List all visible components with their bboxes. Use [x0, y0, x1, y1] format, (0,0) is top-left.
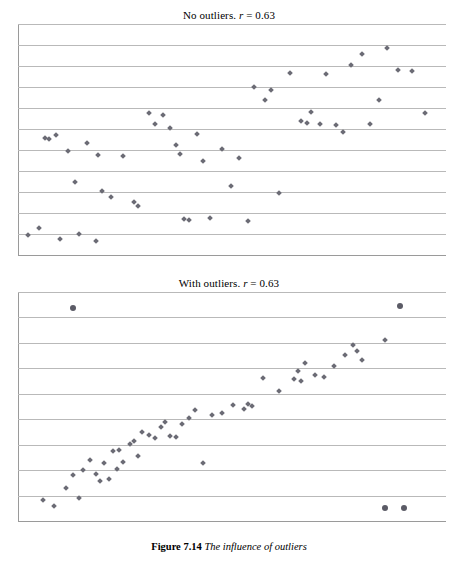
- data-point: [97, 478, 103, 484]
- data-point: [317, 121, 323, 127]
- data-point: [228, 183, 234, 189]
- gridline: [18, 394, 446, 395]
- data-point: [85, 141, 91, 147]
- data-point: [63, 485, 69, 491]
- gridline: [18, 445, 446, 446]
- data-point: [260, 375, 266, 381]
- data-point: [382, 337, 388, 343]
- data-point: [251, 84, 257, 90]
- data-point: [57, 237, 63, 243]
- gridline: [18, 496, 446, 497]
- chart-panel-with-outliers: With outliers. r = 0.63: [0, 276, 458, 538]
- data-point: [40, 497, 46, 503]
- data-point: [51, 503, 57, 509]
- data-point: [108, 194, 114, 200]
- data-point: [308, 109, 314, 115]
- gridline: [18, 419, 446, 420]
- data-point: [355, 348, 361, 354]
- data-point: [350, 343, 356, 349]
- data-point: [312, 372, 318, 378]
- data-point: [135, 203, 141, 209]
- gridline: [18, 171, 446, 172]
- data-point: [87, 457, 93, 463]
- chart-title-no-outliers: No outliers. r = 0.63: [0, 8, 458, 22]
- scatter-plot-with-outliers: [18, 292, 446, 522]
- data-point: [359, 357, 365, 363]
- data-point: [340, 129, 346, 135]
- data-point: [296, 368, 302, 374]
- gridline: [18, 150, 446, 151]
- data-point: [321, 374, 327, 380]
- scatter-plot-no-outliers: [18, 24, 446, 256]
- data-point: [376, 98, 382, 104]
- data-point: [120, 153, 126, 159]
- data-point: [167, 433, 173, 439]
- data-point: [334, 122, 340, 128]
- gridline: [18, 317, 446, 318]
- outlier-point: [397, 303, 403, 309]
- gridline: [18, 87, 446, 88]
- data-point: [268, 87, 274, 93]
- data-point: [359, 51, 365, 57]
- data-point: [367, 121, 373, 127]
- data-point: [348, 63, 354, 69]
- chart-title-stat-value-top: = 0.63: [243, 9, 275, 21]
- gridline: [18, 108, 446, 109]
- figure-caption-label: Figure 7.14: [151, 541, 202, 552]
- outlier-point: [70, 305, 76, 311]
- data-point: [152, 436, 158, 442]
- data-point: [110, 448, 116, 454]
- data-point: [106, 476, 112, 482]
- x-axis-top: [18, 255, 446, 256]
- data-point: [146, 110, 152, 116]
- outlier-point: [401, 505, 407, 511]
- chart-title-with-outliers: With outliers. r = 0.63: [0, 276, 458, 290]
- data-point: [131, 438, 137, 444]
- data-point: [70, 472, 76, 478]
- data-point: [422, 110, 428, 116]
- data-point: [146, 432, 152, 438]
- chart-title-prefix-bottom: With outliers.: [179, 277, 243, 289]
- y-axis-bottom: [18, 292, 19, 522]
- figure-caption: Figure 7.14 The influence of outliers: [0, 541, 458, 552]
- data-point: [220, 410, 226, 416]
- gridline: [18, 45, 446, 46]
- data-point: [230, 402, 236, 408]
- data-point: [93, 471, 99, 477]
- data-point: [120, 459, 126, 465]
- data-point: [186, 415, 192, 421]
- data-point: [53, 133, 59, 139]
- gridline: [18, 213, 446, 214]
- plot-area-top: [18, 24, 446, 256]
- data-point: [323, 72, 329, 78]
- data-point: [101, 460, 107, 466]
- data-point: [180, 421, 186, 427]
- data-point: [186, 217, 192, 223]
- figure-page: No outliers. r = 0.63 With outliers. r =…: [0, 0, 458, 562]
- data-point: [201, 460, 207, 466]
- plot-area-bottom: [18, 292, 446, 522]
- data-point: [262, 98, 268, 104]
- data-point: [291, 376, 297, 382]
- data-point: [161, 112, 167, 118]
- chart-title-prefix-top: No outliers.: [183, 9, 239, 21]
- gridline: [18, 192, 446, 193]
- data-point: [95, 152, 101, 158]
- gridline: [18, 129, 446, 130]
- gridline: [18, 66, 446, 67]
- data-point: [72, 179, 78, 185]
- data-point: [173, 142, 179, 148]
- data-point: [236, 155, 242, 161]
- data-point: [192, 408, 198, 414]
- data-point: [410, 68, 416, 74]
- outlier-point: [382, 505, 388, 511]
- data-point: [47, 136, 53, 142]
- data-point: [241, 406, 247, 412]
- data-point: [302, 360, 308, 366]
- data-point: [93, 238, 99, 244]
- chart-panel-no-outliers: No outliers. r = 0.63: [0, 8, 458, 270]
- data-point: [36, 225, 42, 231]
- data-point: [209, 412, 215, 418]
- data-point: [158, 424, 164, 430]
- gridline: [18, 343, 446, 344]
